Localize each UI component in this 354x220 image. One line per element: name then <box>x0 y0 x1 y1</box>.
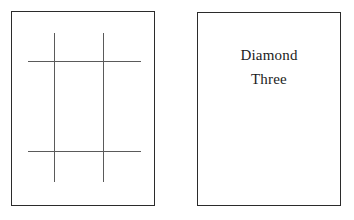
grid-horizontal-line-1 <box>28 61 141 62</box>
grid-vertical-line-2 <box>103 33 104 182</box>
label-text-block: Diamond Three <box>198 43 340 91</box>
label-line-1: Diamond <box>198 43 340 67</box>
grid-vertical-line-1 <box>54 33 55 182</box>
label-line-2: Three <box>198 67 340 91</box>
grid-pattern-card[interactable] <box>11 11 155 206</box>
label-card[interactable]: Diamond Three <box>197 12 341 206</box>
grid-horizontal-line-2 <box>28 151 141 152</box>
stage: Diamond Three <box>0 0 354 220</box>
